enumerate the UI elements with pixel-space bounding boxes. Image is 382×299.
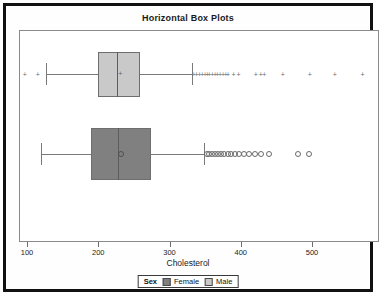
outlier-Male: + [36, 71, 40, 78]
x-tick-label-400: 400 [234, 248, 247, 257]
x-tick-100 [27, 242, 28, 247]
mean-marker-Female [118, 151, 124, 157]
x-tick-label-500: 500 [306, 248, 319, 257]
outlier-Female [295, 151, 301, 157]
outlier-Male: + [232, 71, 236, 78]
x-tick-400 [241, 242, 242, 247]
plot-area [20, 31, 378, 242]
legend-label-male: Male [216, 277, 232, 286]
outlier-Female [306, 151, 312, 157]
legend-item-male[interactable]: Male [205, 277, 232, 286]
whisker-high-Female [151, 154, 204, 155]
outlier-Male: + [361, 71, 365, 78]
x-tick-500 [312, 242, 313, 247]
x-axis-label: Cholesterol [6, 258, 370, 268]
chart-frame: Horizontal Box Plots 100200300400500 Cho… [3, 3, 373, 292]
whisker-cap-low-Female [41, 143, 42, 165]
legend-item-female[interactable]: Female [163, 277, 199, 286]
outlier-Male: + [333, 71, 337, 78]
x-tick-200 [98, 242, 99, 247]
x-tick-label-100: 100 [21, 248, 34, 257]
x-tick-label-300: 300 [163, 248, 176, 257]
whisker-low-Female [41, 154, 92, 155]
outlier-Female [252, 151, 258, 157]
x-tick-300 [170, 242, 171, 247]
whisker-high-Male [140, 74, 191, 75]
outlier-Male: + [237, 71, 241, 78]
outlier-Female [258, 151, 264, 157]
legend-swatch-female [163, 278, 171, 286]
outlier-Male: + [308, 71, 312, 78]
outlier-Male: + [281, 71, 285, 78]
legend: Sex Female Male [138, 275, 239, 288]
x-tick-label-200: 200 [92, 248, 105, 257]
mean-marker-Male: + [118, 70, 123, 78]
whisker-low-Male [46, 74, 99, 75]
legend-swatch-male [205, 278, 213, 286]
outlier-Male: + [262, 71, 266, 78]
outlier-Male: + [23, 71, 27, 78]
outlier-Male: + [254, 71, 258, 78]
legend-label-female: Female [174, 277, 199, 286]
legend-title: Sex [144, 277, 157, 286]
whisker-cap-low-Male [46, 63, 47, 85]
chart-title: Horizontal Box Plots [6, 13, 370, 23]
outlier-Female [266, 151, 272, 157]
outlier-Male: + [226, 71, 230, 78]
